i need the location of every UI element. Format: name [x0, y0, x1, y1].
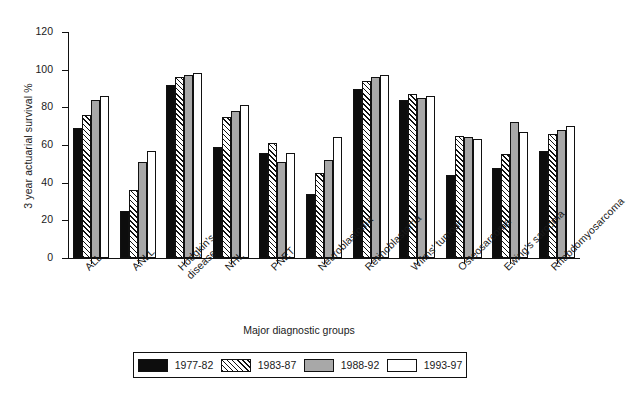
legend-entry[interactable]: 1983-87	[221, 359, 297, 372]
bar	[120, 211, 129, 258]
bar	[231, 111, 240, 258]
bar	[446, 175, 455, 258]
y-tick: 100	[62, 70, 68, 71]
legend-entry[interactable]: 1977-82	[138, 359, 214, 372]
y-tick: 20	[62, 220, 68, 221]
bar	[426, 96, 435, 258]
legend-label: 1988-92	[341, 359, 380, 371]
y-axis-line	[68, 32, 69, 259]
y-tick-label: 40	[41, 176, 53, 188]
bar	[82, 115, 91, 258]
legend-entry[interactable]: 1993-97	[387, 359, 463, 372]
bar	[259, 153, 268, 258]
legend-entry[interactable]: 1988-92	[304, 359, 380, 372]
bar	[175, 77, 184, 258]
bar	[380, 75, 389, 258]
bar	[222, 117, 231, 258]
bar	[324, 160, 333, 258]
bar	[166, 85, 175, 258]
bar	[557, 130, 566, 258]
bar	[548, 134, 557, 258]
bar	[91, 100, 100, 258]
y-tick: 0	[62, 258, 68, 259]
chart-legend: 1977-821983-871988-921993-97	[133, 352, 467, 378]
bar-group	[166, 31, 202, 258]
legend-swatch-icon	[138, 359, 168, 372]
y-tick-label: 100	[35, 63, 53, 75]
bar	[306, 194, 315, 258]
bar-group	[213, 31, 249, 258]
legend-label: 1977-82	[175, 359, 214, 371]
y-tick: 80	[62, 107, 68, 108]
bar	[464, 137, 473, 258]
bar	[455, 136, 464, 258]
bar	[138, 162, 147, 258]
legend-label: 1993-97	[424, 359, 463, 371]
bar-group	[73, 31, 109, 258]
y-tick-label: 120	[35, 25, 53, 37]
bar	[371, 77, 380, 258]
bar	[286, 153, 295, 258]
y-axis-title: 3 year actuarial survival %	[22, 46, 34, 246]
legend-swatch-icon	[221, 359, 251, 372]
bar	[501, 154, 510, 258]
y-tick: 120	[62, 32, 68, 33]
legend-swatch-icon	[387, 359, 417, 372]
bar	[129, 190, 138, 258]
y-tick-label: 0	[47, 251, 53, 263]
bar	[268, 143, 277, 258]
y-tick: 60	[62, 145, 68, 146]
bar	[277, 162, 286, 258]
bar-group	[120, 31, 156, 258]
y-tick-label: 80	[41, 100, 53, 112]
bar	[240, 105, 249, 258]
bar	[492, 168, 501, 258]
x-axis-title: Major diagnostic groups	[0, 324, 598, 336]
bar	[193, 73, 202, 258]
y-tick-label: 20	[41, 213, 53, 225]
y-tick: 40	[62, 183, 68, 184]
bar	[417, 98, 426, 258]
legend-label: 1983-87	[258, 359, 297, 371]
y-tick-label: 60	[41, 138, 53, 150]
bar-group	[306, 31, 342, 258]
bar	[73, 128, 82, 258]
bar	[100, 96, 109, 258]
bar	[315, 173, 324, 258]
bar	[510, 122, 519, 258]
bar	[147, 151, 156, 258]
bar-group	[259, 31, 295, 258]
legend-swatch-icon	[304, 359, 334, 372]
bar	[184, 75, 193, 258]
